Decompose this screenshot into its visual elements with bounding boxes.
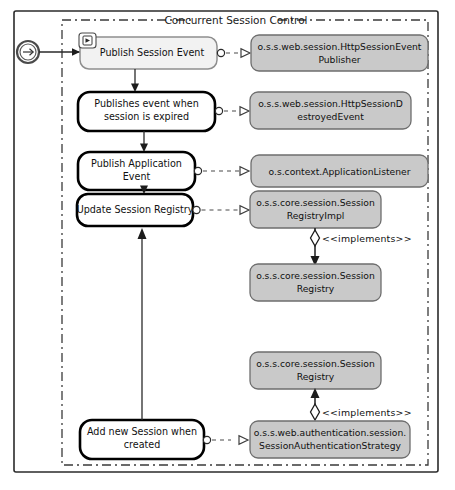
interface-label-line1: o.s.context.ApplicationListener	[269, 166, 411, 177]
activity-label-line1: Publish Application	[91, 158, 182, 169]
activity-update-session-registry[interactable]: Update Session Registry	[77, 194, 194, 226]
interface-session-authentication-strategy[interactable]: o.s.s.web.authentication.session. Sessio…	[250, 421, 410, 458]
hollow-diamond-icon	[311, 404, 320, 420]
interface-label-line1: o.s.s.core.session.Session	[256, 270, 375, 281]
interface-label-line1: o.s.s.web.session.HttpSessionEvent	[258, 41, 422, 52]
activity-label-line2: Event	[123, 171, 151, 182]
activity-label-line1: Add new Session when	[87, 426, 197, 437]
start-node	[17, 41, 39, 63]
implements-relation-upper: <<implements>>	[311, 228, 412, 266]
activity-publish-application-event[interactable]: Publish Application Event	[78, 152, 195, 190]
hollow-diamond-icon	[311, 230, 320, 246]
interface-label-line2: estroyedEvent	[297, 111, 364, 122]
frame-title: Concurrent Session Control	[165, 14, 308, 26]
hollow-arrowhead-icon	[240, 206, 249, 214]
activity-add-new-session-when-created[interactable]: Add new Session when created	[80, 420, 204, 459]
flow-publishes-event-to-publish-application-event	[140, 131, 148, 152]
uml-activity-diagram: Concurrent Session Control Publish S	[0, 0, 455, 490]
interface-label-line1: o.s.s.web.session.HttpSessionD	[258, 98, 403, 109]
activity-label-line2: created	[124, 439, 161, 450]
interface-session-registry-lower[interactable]: o.s.s.core.session.Session Registry	[250, 352, 381, 389]
socket-icon	[193, 206, 200, 213]
activity-label: Publish Session Event	[100, 47, 205, 58]
socket-icon	[203, 436, 210, 443]
dependency-update-session-registry-to-session-registry-impl	[193, 206, 249, 214]
interface-label-line1: o.s.s.core.session.Session	[256, 358, 375, 369]
hollow-arrowhead-icon	[240, 167, 249, 175]
activity-label: Update Session Registry	[77, 204, 194, 215]
interface-application-listener[interactable]: o.s.context.ApplicationListener	[251, 155, 428, 187]
socket-icon	[194, 167, 201, 174]
interface-label-line2: Publisher	[318, 54, 360, 65]
interface-label-line2: SessionAuthenticationStrategy	[259, 440, 401, 451]
activity-label-line1: Publishes event when	[94, 98, 198, 109]
flow-add-new-session-to-update-session-registry	[138, 228, 147, 420]
hollow-arrowhead-icon	[240, 107, 249, 115]
dependency-publish-application-event-to-application-listener	[194, 167, 249, 175]
interface-label-line1: o.s.s.web.authentication.session.	[254, 427, 406, 438]
implements-stereotype-label: <<implements>>	[322, 233, 412, 244]
interface-http-session-destroyed-event[interactable]: o.s.s.web.session.HttpSessionD estroyedE…	[250, 92, 411, 129]
subprocess-play-marker-icon	[79, 33, 96, 48]
interface-label-line2: Registry	[297, 371, 335, 382]
dependency-publish-session-event-to-http-session-event-publisher	[217, 49, 250, 57]
flow-start-to-publish-session-event	[39, 48, 80, 56]
hollow-arrowhead-icon	[239, 436, 248, 444]
implements-relation-lower: <<implements>>	[311, 388, 412, 420]
socket-icon	[215, 107, 222, 114]
dependency-publishes-event-to-http-session-destroyed-event	[215, 107, 249, 115]
interface-label-line1: o.s.s.core.session.Session	[256, 197, 375, 208]
interface-label-line2: Registry	[297, 283, 335, 294]
activity-publishes-event-when-session-expired[interactable]: Publishes event when session is expired	[78, 92, 215, 131]
implements-stereotype-label: <<implements>>	[322, 407, 412, 418]
hollow-arrowhead-icon	[241, 49, 250, 57]
interface-label-line2: RegistryImpl	[287, 210, 345, 221]
flow-publish-session-event-to-publishes-event	[131, 69, 139, 92]
socket-icon	[217, 49, 224, 56]
activity-label-line2: session is expired	[104, 111, 189, 122]
interface-session-registry-upper[interactable]: o.s.s.core.session.Session Registry	[250, 264, 381, 301]
activity-publish-session-event[interactable]: Publish Session Event	[79, 33, 217, 69]
interface-session-registry-impl[interactable]: o.s.s.core.session.Session RegistryImpl	[250, 191, 381, 228]
dependency-add-new-session-to-session-authentication-strategy	[203, 436, 248, 444]
diagram-canvas: Concurrent Session Control Publish S	[0, 0, 455, 490]
interface-http-session-event-publisher[interactable]: o.s.s.web.session.HttpSessionEvent Publi…	[251, 35, 428, 71]
